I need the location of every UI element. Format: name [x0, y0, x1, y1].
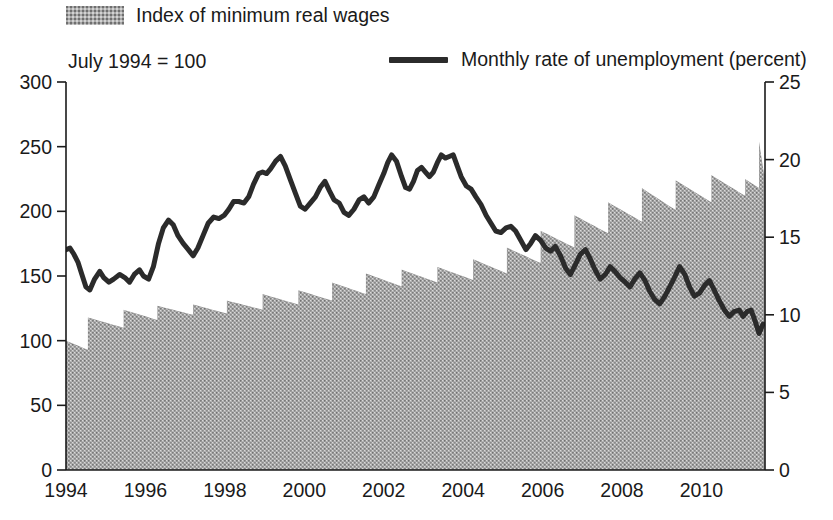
- right-axis-tick-label: 5: [779, 381, 790, 403]
- x-axis-tick-label: 2002: [362, 479, 405, 501]
- right-axis-tick-label: 25: [779, 71, 801, 93]
- right-axis-tick-label: 10: [779, 304, 801, 326]
- x-axis-tick-label: 2004: [441, 479, 485, 501]
- x-axis-tick-label: 1994: [44, 479, 88, 501]
- x-axis-tick-label: 1996: [124, 479, 167, 501]
- left-axis-tick-label: 0: [41, 459, 52, 481]
- left-axis-tick-label: 300: [19, 71, 52, 93]
- x-axis-tick-label: 1998: [203, 479, 246, 501]
- left-axis-tick-label: 50: [30, 394, 52, 416]
- left-axis-tick-label: 100: [19, 330, 52, 352]
- right-axis-tick-label: 15: [779, 226, 801, 248]
- x-axis-tick-label: 2008: [600, 479, 643, 501]
- left-axis-tick-label: 200: [19, 200, 52, 222]
- x-axis-tick-label: 2000: [283, 479, 327, 501]
- bar-series-wage-index: [66, 82, 765, 470]
- left-axis-tick-label: 150: [19, 265, 52, 287]
- plot-area: 0501001502002503000510152025199419961998…: [0, 0, 833, 520]
- chart-figure: Index of minimum real wages July 1994 = …: [0, 0, 833, 520]
- left-axis-tick-label: 250: [19, 136, 52, 158]
- right-axis-tick-label: 0: [779, 459, 790, 481]
- right-axis-tick-label: 20: [779, 149, 801, 171]
- x-axis-tick-label: 2010: [680, 479, 724, 501]
- x-axis-tick-label: 2006: [521, 479, 564, 501]
